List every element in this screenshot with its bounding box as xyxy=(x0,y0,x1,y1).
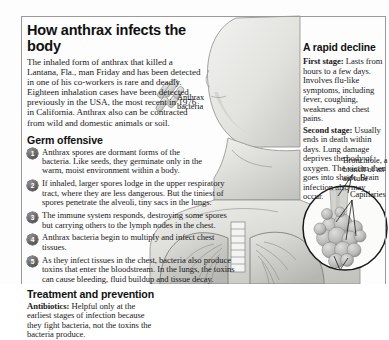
head-shape xyxy=(206,16,300,147)
list-item: 1 Anthrax spores are dormant forms of th… xyxy=(27,148,205,176)
step-number-badge: 5 xyxy=(27,256,38,267)
treatment-heading: Treatment and prevention xyxy=(27,288,205,300)
list-item: 4 Anthrax bacteria begin to multiply and… xyxy=(27,233,238,252)
germ-offensive-steps: 1 Anthrax spores are dormant forms of th… xyxy=(27,148,205,284)
list-item: 3 The immune system responds, destroying… xyxy=(27,211,238,230)
step-number-badge: 2 xyxy=(27,180,38,191)
step-number-badge: 4 xyxy=(27,234,38,245)
label-bronchiole: Bronchiole, a branch of an air tube xyxy=(343,156,388,184)
label-capillaries: Capillaries xyxy=(350,190,389,199)
first-stage-label: First stage: xyxy=(303,56,344,66)
label-anthrax-bacteria: Anthrax bacteria xyxy=(177,93,211,111)
rapid-decline-heading: A rapid decline xyxy=(303,42,387,54)
step-text: As they infect tissues in the chest, bac… xyxy=(42,255,235,284)
left-column: How anthrax infects the body The inhaled… xyxy=(27,22,205,340)
step-text: Anthrax spores are dormant forms of the … xyxy=(42,147,202,176)
step-text: The immune system responds, destroying s… xyxy=(42,210,227,229)
germ-offensive-heading: Germ offensive xyxy=(27,134,205,146)
first-stage-paragraph: First stage: Lasts from hours to a few d… xyxy=(303,57,387,124)
list-item: 5 As they infect tissues in the chest, b… xyxy=(27,256,238,284)
step-number-badge: 3 xyxy=(27,212,38,223)
page-title: How anthrax infects the body xyxy=(27,22,205,54)
first-stage-text: Lasts from hours to a few days. Involves… xyxy=(303,56,382,123)
list-item: 2 If inhaled, larger spores lodge in the… xyxy=(27,179,238,207)
treatment-paragraph: Antibiotics: Helpful only at the earlies… xyxy=(27,302,153,340)
second-stage-label: Second stage: xyxy=(303,125,352,135)
step-number-badge: 1 xyxy=(27,148,38,159)
step-text: If inhaled, larger spores lodge in the u… xyxy=(42,178,224,207)
step-text: Anthrax bacteria begin to multiply and i… xyxy=(42,232,214,251)
